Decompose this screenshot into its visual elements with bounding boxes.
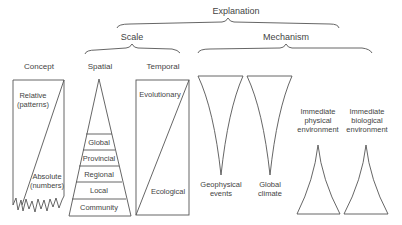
immediate-biological-label-1: Immediate (343, 107, 391, 116)
explanation-brace (117, 18, 339, 28)
concept-absolute-label: Absolute (30, 172, 64, 181)
geophysical-label-2: events (196, 189, 246, 198)
explanation-header: Explanation (206, 7, 266, 16)
spatial-level-global: Global (80, 138, 118, 147)
immediate-biological-label-2: biological (343, 116, 391, 125)
scale-header: Scale (112, 33, 152, 42)
immediate-physical-label-1: Immediate (294, 107, 342, 116)
spatial-level-local: Local (78, 186, 120, 195)
spatial-pyramid (69, 79, 131, 216)
geophysical-shape (198, 76, 243, 175)
spatial-level-community: Community (74, 203, 124, 212)
temporal-evolutionary-label: Evolutionary (137, 90, 183, 99)
spatial-level-regional: Regional (78, 170, 120, 179)
geophysical-label-1: Geophysical (196, 180, 246, 189)
global-climate-label-1: Global (250, 180, 290, 189)
concept-patterns-label: (patterns) (16, 100, 50, 109)
temporal-ecological-label: Ecological (148, 187, 188, 196)
immediate-biological-shape (344, 145, 388, 214)
spatial-title: Spatial (80, 62, 120, 71)
mechanism-brace (198, 44, 372, 53)
global-climate-label-2: climate (250, 189, 290, 198)
scale-brace (85, 44, 180, 54)
immediate-physical-label-2: physical (294, 116, 342, 125)
spatial-level-provincial: Provincial (78, 154, 120, 163)
mechanism-header: Mechanism (256, 33, 316, 42)
concept-numbers-label: (numbers) (29, 181, 65, 190)
global-climate-shape (247, 76, 292, 175)
temporal-title: Temporal (140, 62, 186, 71)
immediate-physical-label-3: environment (294, 125, 342, 134)
immediate-biological-label-3: environment (343, 125, 391, 134)
concept-title: Concept (14, 62, 64, 71)
concept-relative-label: Relative (16, 91, 50, 100)
immediate-physical-shape (297, 145, 340, 214)
